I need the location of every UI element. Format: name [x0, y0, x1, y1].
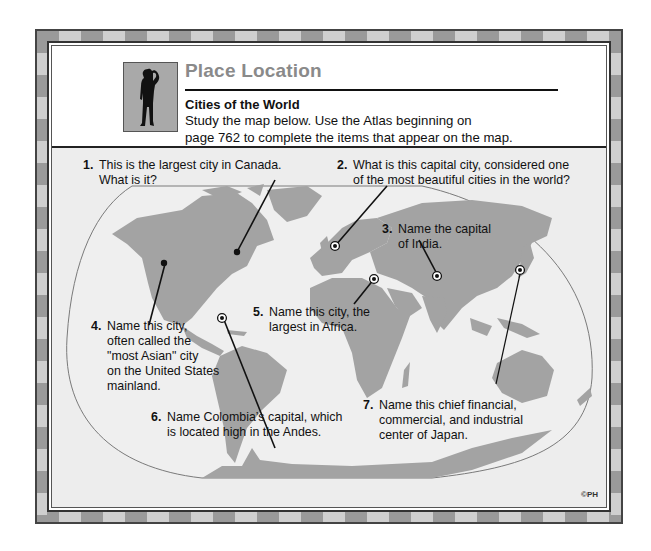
- title-divider: [185, 89, 558, 91]
- marker-toronto: [234, 249, 240, 255]
- frame-right-border: [611, 31, 621, 522]
- question-5: 5.Name this city, thelargest in Africa.: [253, 305, 370, 335]
- marker-new-delhi: [433, 272, 442, 281]
- section-subtitle: Cities of the World: [185, 97, 300, 112]
- worksheet-header: Place Location Cities of the World Study…: [52, 46, 606, 148]
- marker-cairo: [370, 275, 379, 284]
- page-title: Place Location: [185, 60, 322, 82]
- frame-left-border: [37, 31, 47, 522]
- copyright-notice: ©PH: [581, 490, 598, 499]
- worksheet-panel: Place Location Cities of the World Study…: [47, 41, 611, 512]
- marker-tokyo: [516, 266, 525, 275]
- instructions-line-1: Study the map below. Use the Atlas begin…: [185, 112, 585, 129]
- instructions: Study the map below. Use the Atlas begin…: [185, 112, 585, 146]
- question-2: 2.What is this capital city, considered …: [337, 158, 570, 188]
- marker-paris: [331, 242, 340, 251]
- question-3: 3.Name the capitalof India.: [382, 222, 491, 252]
- marker-san-francisco: [161, 260, 167, 266]
- question-1: 1.This is the largest city in Canada.Wha…: [83, 158, 282, 188]
- question-6: 6.Name Colombia’s capital, whichis locat…: [151, 410, 342, 440]
- question-4: 4.Name this city,often called the"most A…: [91, 319, 219, 394]
- person-silhouette-icon: [123, 62, 178, 132]
- instructions-line-2: page 762 to complete the items that appe…: [185, 129, 585, 146]
- world-map: 1.This is the largest city in Canada.Wha…: [52, 148, 606, 507]
- decorative-frame: Place Location Cities of the World Study…: [35, 29, 623, 524]
- question-7: 7.Name this chief financial,commercial, …: [363, 398, 523, 443]
